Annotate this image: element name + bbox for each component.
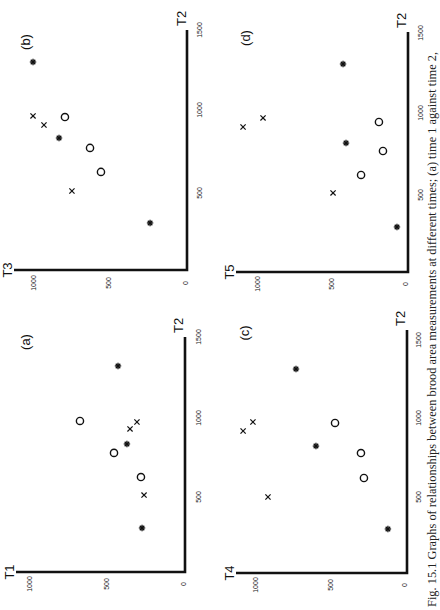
panel-b-ylabel: T3	[0, 262, 15, 277]
svg-text:1000: 1000	[417, 105, 424, 121]
panel-b-title: (b)	[18, 34, 33, 50]
asterisk-marker	[343, 140, 349, 146]
svg-text:1500: 1500	[196, 22, 203, 38]
panel-b-yticks: 0 500 1000	[30, 275, 189, 291]
panel-c-axes	[236, 330, 407, 573]
circle-marker	[357, 449, 364, 456]
cross-marker	[250, 419, 255, 424]
circle-marker	[357, 171, 364, 178]
circle-marker	[61, 113, 68, 120]
svg-text:1000: 1000	[415, 410, 422, 426]
svg-text:500: 500	[103, 578, 110, 590]
svg-text:500: 500	[328, 278, 335, 290]
panel-a-title: (a)	[18, 334, 33, 350]
svg-text:1000: 1000	[195, 410, 202, 426]
svg-text:0: 0	[402, 282, 409, 286]
panel-c-ylabel: T4	[222, 565, 237, 580]
svg-text:500: 500	[105, 277, 112, 289]
panel-c-markers	[241, 366, 392, 532]
panel-b-axes	[14, 30, 187, 270]
asterisk-marker	[56, 135, 62, 141]
panel-a-xticks: 500 1000 1500	[195, 329, 202, 503]
circle-marker	[331, 419, 338, 426]
svg-text:0: 0	[182, 281, 189, 285]
asterisk-marker	[115, 363, 121, 369]
panel-a-xlabel: T2	[171, 318, 186, 333]
cross-marker	[41, 122, 46, 127]
panel-d-markers	[240, 61, 400, 230]
panel-b: T3 T2 (b) 0 500 1000 500 1000 1500	[0, 11, 203, 291]
svg-text:1000: 1000	[252, 577, 259, 593]
panel-a: T1 T2 (a) 0 500 1000 500 1000 1500	[2, 318, 202, 592]
panel-a-axes	[16, 337, 185, 572]
circle-marker	[76, 417, 83, 424]
svg-text:500: 500	[415, 491, 422, 503]
circle-marker	[379, 147, 386, 154]
svg-text:1000: 1000	[196, 102, 203, 118]
panel-c-xlabel: T2	[393, 311, 408, 326]
circle-marker	[86, 144, 93, 151]
panel-d-xticks: 500 1000 1500	[417, 25, 424, 201]
figure-canvas: T1 T2 (a) 0 500 1000 500 1000 1500 T3 T2…	[0, 0, 440, 610]
asterisk-marker	[385, 526, 391, 532]
panel-b-xticks: 500 1000 1500	[196, 22, 203, 199]
svg-text:500: 500	[195, 491, 202, 503]
asterisk-marker	[313, 443, 319, 449]
circle-marker	[97, 168, 104, 175]
cross-marker	[260, 115, 265, 120]
asterisk-marker	[30, 59, 36, 65]
svg-text:0: 0	[180, 582, 187, 586]
asterisk-marker	[394, 224, 400, 230]
svg-text:1500: 1500	[417, 25, 424, 41]
panel-c: T4 T2 (c) 0 500 1000 500 1000 1500	[222, 311, 422, 593]
cross-marker	[134, 419, 139, 424]
panel-d-xlabel: T2	[394, 13, 409, 28]
panel-d: T5 T2 (d) 0 500 1000 500 1000 1500	[222, 13, 424, 292]
asterisk-marker	[124, 441, 130, 447]
svg-text:1500: 1500	[195, 329, 202, 345]
cross-marker	[265, 494, 270, 499]
panel-c-xticks: 500 1000 1500	[415, 332, 422, 503]
asterisk-marker	[139, 525, 145, 531]
panel-d-yticks: 0 500 1000	[254, 276, 409, 292]
figure-caption: Fig. 15.1 Graphs of relationships betwee…	[425, 52, 439, 607]
svg-text:1000: 1000	[26, 576, 33, 592]
panel-c-yticks: 0 500 1000	[252, 577, 408, 593]
circle-marker	[375, 118, 382, 125]
svg-text:1000: 1000	[30, 275, 37, 291]
svg-text:500: 500	[196, 187, 203, 199]
panel-a-ylabel: T1	[2, 564, 17, 579]
svg-text:1500: 1500	[415, 332, 422, 348]
cross-marker	[30, 113, 35, 118]
svg-text:0: 0	[401, 583, 408, 587]
cross-marker	[69, 188, 74, 193]
svg-text:500: 500	[327, 579, 334, 591]
asterisk-marker	[147, 220, 153, 226]
svg-text:1000: 1000	[254, 276, 261, 292]
panel-a-markers	[76, 363, 146, 531]
panel-d-ylabel: T5	[222, 264, 237, 279]
panel-b-xlabel: T2	[174, 11, 189, 26]
panel-b-markers	[30, 59, 153, 226]
asterisk-marker	[340, 61, 346, 67]
cross-marker	[240, 124, 245, 129]
asterisk-marker	[293, 366, 299, 372]
cross-marker	[241, 428, 246, 433]
panel-d-axes	[236, 32, 408, 272]
circle-marker	[137, 473, 144, 480]
panel-a-yticks: 0 500 1000	[26, 576, 187, 592]
cross-marker	[330, 190, 335, 195]
cross-marker	[127, 426, 132, 431]
panel-d-title: (d)	[238, 30, 253, 46]
svg-text:500: 500	[417, 189, 424, 201]
circle-marker	[360, 474, 367, 481]
panel-c-title: (c)	[237, 325, 252, 340]
circle-marker	[110, 449, 117, 456]
cross-marker	[141, 492, 146, 497]
